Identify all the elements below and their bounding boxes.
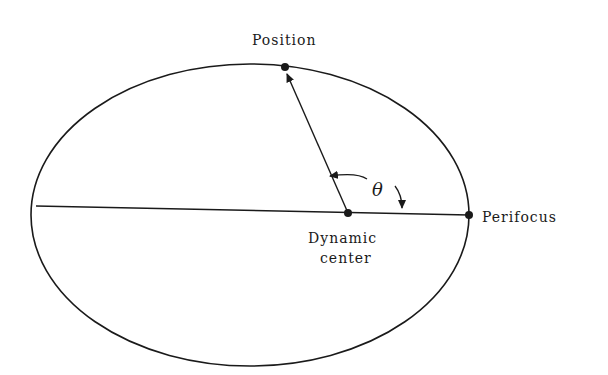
orbit-ellipse bbox=[31, 64, 469, 366]
dynamic-center-label-line1: Dynamic bbox=[308, 230, 377, 246]
position-point bbox=[281, 63, 289, 71]
dynamic-center-label-line2: center bbox=[320, 250, 372, 266]
position-label: Position bbox=[252, 32, 317, 48]
theta-label: θ bbox=[372, 179, 383, 200]
apsidal-line bbox=[36, 206, 469, 215]
dynamic-center-point bbox=[344, 209, 352, 217]
perifocus-label: Perifocus bbox=[482, 209, 557, 225]
theta-arc-upper bbox=[330, 175, 367, 179]
theta-arc-lower bbox=[395, 186, 402, 208]
radius-vector-arrow bbox=[287, 74, 348, 213]
orbit-diagram: Position Perifocus Dynamic center θ bbox=[0, 0, 608, 375]
perifocus-point bbox=[465, 211, 473, 219]
